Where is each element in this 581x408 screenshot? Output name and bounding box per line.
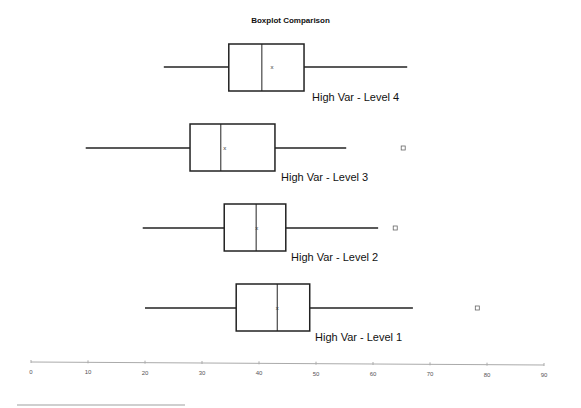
x-tick-label: 20: [142, 370, 149, 376]
boxplot-series: xHigh Var - Level 4xHigh Var - Level 3xH…: [86, 44, 480, 343]
boxplot-3: xHigh Var - Level 3: [86, 124, 405, 183]
scrollbar-remnant: [17, 404, 185, 406]
series-label: High Var - Level 3: [281, 171, 368, 183]
series-label: High Var - Level 4: [312, 91, 399, 103]
boxplot-2: xHigh Var - Level 2: [143, 204, 398, 263]
series-label: High Var - Level 2: [291, 251, 378, 263]
mean-marker-icon: x: [276, 305, 279, 311]
x-tick-label: 30: [199, 370, 206, 376]
x-tick-label: 40: [256, 370, 263, 376]
boxplot-1: xHigh Var - Level 1: [145, 284, 479, 343]
boxplot-chart: 0102030405060708090 xHigh Var - Level 4x…: [0, 0, 581, 408]
x-axis: 0102030405060708090: [29, 360, 548, 378]
outlier-square-icon: [475, 306, 479, 310]
mean-marker-icon: x: [255, 225, 258, 231]
iqr-box: [190, 124, 275, 171]
x-axis-line: [31, 362, 544, 365]
x-tick-label: 90: [541, 372, 548, 378]
mean-marker-icon: x: [223, 145, 226, 151]
mean-marker-icon: x: [271, 64, 274, 70]
x-tick-label: 50: [313, 371, 320, 377]
x-tick-label: 10: [85, 369, 92, 375]
outlier-square-icon: [393, 226, 397, 230]
boxplot-4: xHigh Var - Level 4: [164, 44, 407, 103]
x-tick-label: 80: [484, 372, 491, 378]
series-label: High Var - Level 1: [315, 331, 402, 343]
outlier-square-icon: [401, 146, 405, 150]
x-tick-label: 60: [370, 371, 377, 377]
iqr-box: [229, 44, 304, 91]
x-tick-label: 70: [427, 371, 434, 377]
x-tick-label: 0: [29, 369, 33, 375]
iqr-box: [236, 284, 310, 331]
